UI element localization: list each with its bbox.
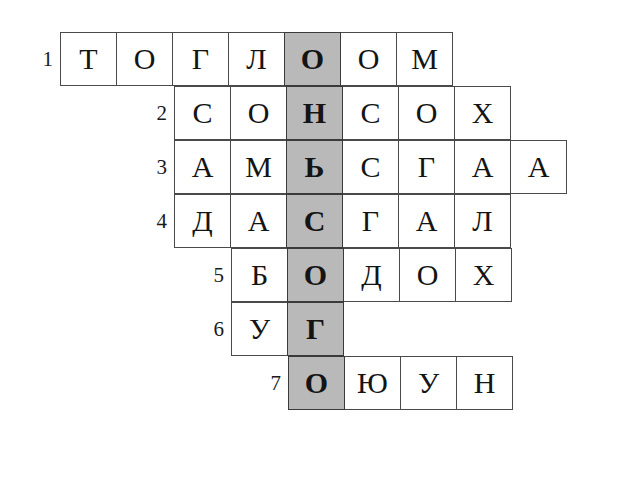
row-number-5: 5 (197, 248, 231, 302)
grid-cell[interactable]: Л (228, 32, 285, 86)
grid-cell[interactable]: Ю (344, 356, 401, 410)
crossword-row: БОДОХ (231, 248, 512, 302)
grid-cell-highlighted[interactable]: Г (287, 302, 344, 356)
grid-cell[interactable]: А (174, 140, 231, 194)
grid-cell[interactable]: С (342, 140, 399, 194)
grid-cell[interactable]: Д (343, 248, 400, 302)
grid-cell[interactable]: О (399, 248, 456, 302)
grid-cell[interactable]: А (510, 140, 567, 194)
grid-cell[interactable]: Х (455, 248, 512, 302)
grid-cell[interactable]: Д (174, 194, 231, 248)
grid-cell-highlighted[interactable]: Н (286, 86, 343, 140)
grid-cell[interactable]: Б (231, 248, 288, 302)
grid-cell[interactable]: Х (454, 86, 511, 140)
grid-cell-highlighted[interactable]: Ь (286, 140, 343, 194)
row-number-1: 1 (26, 32, 60, 86)
grid-cell[interactable]: А (230, 194, 287, 248)
grid-cell[interactable]: О (340, 32, 397, 86)
row-number-3: 3 (140, 140, 174, 194)
grid-cell[interactable]: Г (172, 32, 229, 86)
grid-cell-highlighted[interactable]: С (286, 194, 343, 248)
grid-cell-highlighted[interactable]: О (288, 356, 345, 410)
grid-cell[interactable]: У (231, 302, 288, 356)
row-number-6: 6 (197, 302, 231, 356)
grid-cell[interactable]: С (174, 86, 231, 140)
grid-cell[interactable]: Л (454, 194, 511, 248)
row-number-7: 7 (254, 356, 288, 410)
grid-cell[interactable]: Г (342, 194, 399, 248)
grid-cell-highlighted[interactable]: О (284, 32, 341, 86)
row-number-4: 4 (140, 194, 174, 248)
crossword-row: ОЮУН (288, 356, 513, 410)
crossword-grid: 1ТОГЛООМ2СОНСОХ3АМЬСГАА4ДАСГАЛ5БОДОХ6УГ7… (0, 0, 629, 482)
crossword-row: СОНСОХ (174, 86, 511, 140)
grid-cell[interactable]: У (400, 356, 457, 410)
grid-cell[interactable]: Т (60, 32, 117, 86)
grid-cell[interactable]: А (398, 194, 455, 248)
grid-cell[interactable]: М (396, 32, 453, 86)
grid-cell-highlighted[interactable]: О (287, 248, 344, 302)
grid-cell[interactable]: С (342, 86, 399, 140)
crossword-row: УГ (231, 302, 344, 356)
grid-cell[interactable]: О (230, 86, 287, 140)
row-number-2: 2 (140, 86, 174, 140)
grid-cell[interactable]: О (116, 32, 173, 86)
crossword-row: АМЬСГАА (174, 140, 567, 194)
crossword-row: ДАСГАЛ (174, 194, 511, 248)
crossword-row: ТОГЛООМ (60, 32, 453, 86)
grid-cell[interactable]: М (230, 140, 287, 194)
grid-cell[interactable]: А (454, 140, 511, 194)
grid-cell[interactable]: Н (456, 356, 513, 410)
grid-cell[interactable]: Г (398, 140, 455, 194)
grid-cell[interactable]: О (398, 86, 455, 140)
